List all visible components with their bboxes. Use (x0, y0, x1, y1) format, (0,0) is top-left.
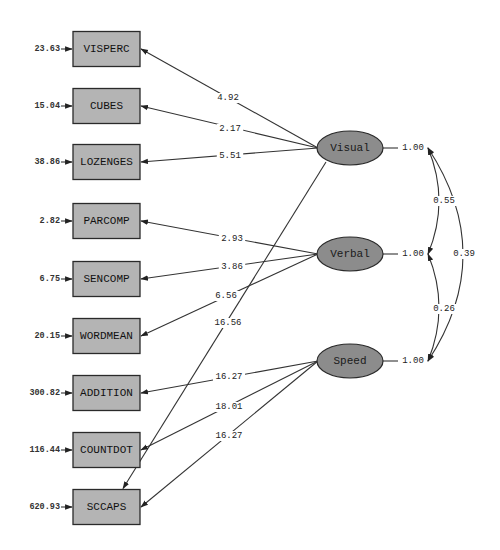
observed-variable-lozenges[interactable]: LOZENGES (73, 145, 140, 180)
latent-variable-speed[interactable]: Speed (317, 344, 383, 378)
loading-value-visual-sccaps: 16.56 (214, 318, 241, 328)
loading-value-verbal-wordmean: 6.56 (215, 291, 237, 301)
latent-label: Verbal (330, 248, 370, 260)
error-variance-lozenges: 38.86 (34, 157, 60, 167)
observed-label: LOZENGES (80, 156, 133, 168)
loading-value-visual-visperc: 4.92 (217, 93, 239, 103)
loading-value-visual-cubes: 2.17 (219, 124, 241, 134)
loading-value-verbal-sencomp: 3.86 (221, 262, 243, 272)
covariance-value-visual-speed: 0.39 (453, 249, 475, 259)
covariance-value-visual-verbal: 0.55 (433, 196, 455, 206)
observed-variable-addition[interactable]: ADDITION (73, 376, 140, 411)
observed-variable-wordmean[interactable]: WORDMEAN (73, 319, 140, 354)
observed-variable-parcomp[interactable]: PARCOMP (73, 204, 140, 239)
loading-value-speed-sccaps: 16.27 (215, 431, 242, 441)
observed-variable-sccaps[interactable]: SCCAPS (73, 490, 140, 525)
observed-variable-sencomp[interactable]: SENCOMP (73, 262, 140, 297)
error-variance-sencomp: 6.75 (40, 274, 60, 284)
observed-label: ADDITION (80, 387, 133, 399)
error-variance-countdot: 116.44 (29, 445, 60, 455)
observed-label: COUNTDOT (80, 444, 133, 456)
observed-label: PARCOMP (83, 215, 130, 227)
latent-label: Visual (330, 142, 370, 154)
covariance-value-verbal-speed: 0.26 (433, 304, 455, 314)
observed-label: SENCOMP (83, 273, 130, 285)
loading-value-verbal-parcomp: 2.93 (221, 234, 243, 244)
latent-variance-visual: 1.00 (402, 143, 424, 153)
error-variance-visperc: 23.63 (34, 44, 60, 54)
error-variance-cubes: 15.04 (34, 101, 60, 111)
observed-variable-visperc[interactable]: VISPERC (73, 32, 140, 67)
latent-variance-verbal: 1.00 (402, 249, 424, 259)
observed-variable-cubes[interactable]: CUBES (73, 89, 140, 124)
loading-value-speed-addition: 16.27 (215, 372, 242, 382)
error-variance-sccaps: 620.93 (29, 502, 60, 512)
latent-variance-speed: 1.00 (402, 356, 424, 366)
loading-value-visual-lozenges: 5.51 (219, 151, 241, 161)
latent-variable-verbal[interactable]: Verbal (317, 237, 383, 271)
observed-label: WORDMEAN (80, 330, 133, 342)
observed-variable-countdot[interactable]: COUNTDOT (73, 433, 140, 468)
observed-label: VISPERC (83, 43, 130, 55)
error-variance-addition: 300.82 (29, 388, 60, 398)
error-variance-wordmean: 20.15 (34, 331, 60, 341)
path-diagram: VISPERCCUBESLOZENGESPARCOMPSENCOMPWORDME… (0, 0, 500, 550)
observed-label: CUBES (90, 100, 123, 112)
observed-label: SCCAPS (87, 501, 127, 513)
latent-label: Speed (333, 355, 366, 367)
nodes-layer: VISPERCCUBESLOZENGESPARCOMPSENCOMPWORDME… (73, 32, 383, 525)
error-variance-parcomp: 2.82 (40, 216, 60, 226)
latent-variable-visual[interactable]: Visual (317, 131, 383, 165)
loading-value-speed-countdot: 18.01 (215, 402, 242, 412)
